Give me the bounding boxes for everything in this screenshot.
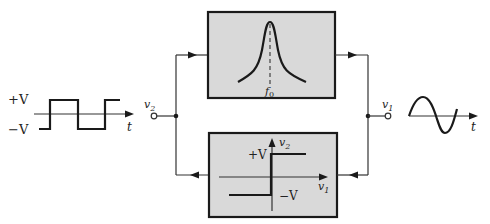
square-wave-time-label: t: [127, 120, 132, 134]
left-junction-dot: [174, 114, 179, 119]
sine-wave-time-label: t: [471, 120, 476, 134]
oscillator-block-diagram: +V −V t v2 f0 v2 +V −V v1: [0, 0, 490, 224]
v2-terminal-label: v2: [144, 98, 155, 113]
right-node: v1: [335, 52, 393, 179]
square-wave-graph: +V −V t: [8, 92, 134, 137]
time-axis-arrow-icon: [125, 111, 134, 118]
time-axis-arrow-icon: [469, 113, 478, 120]
limiter-high-label: +V: [248, 148, 267, 162]
limiter-low-label: −V: [279, 189, 298, 203]
v1-terminal: [385, 113, 391, 119]
v1-terminal-label: v1: [382, 98, 393, 113]
sine-wave-graph: t: [409, 97, 478, 134]
right-arrow-icon: [348, 52, 357, 59]
square-wave-low-label: −V: [8, 122, 29, 137]
right-arrow-icon: [188, 52, 197, 59]
sine-wave-trace: [409, 97, 457, 133]
v2-terminal: [151, 113, 157, 119]
bandpass-filter-block: f0: [208, 12, 335, 99]
limiter-block: v2 +V −V v1: [209, 133, 337, 217]
left-arrow-icon: [349, 172, 358, 179]
left-arrow-icon: [190, 172, 199, 179]
square-wave-high-label: +V: [8, 92, 29, 107]
left-node: v2: [144, 52, 209, 179]
bandpass-filter-box: [208, 12, 335, 98]
